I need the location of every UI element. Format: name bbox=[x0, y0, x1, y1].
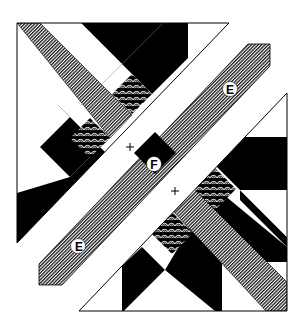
label-f-center: F bbox=[147, 157, 162, 172]
label-e-upper: E bbox=[223, 82, 238, 97]
label-e-upper-text: E bbox=[226, 83, 234, 97]
quilt-diagram: E F E bbox=[0, 0, 306, 323]
label-f-text: F bbox=[150, 158, 157, 172]
cross-marker-lower bbox=[171, 187, 179, 195]
cross-marker-upper bbox=[126, 143, 134, 151]
label-e-lower-text: E bbox=[75, 240, 83, 254]
label-e-lower: E bbox=[71, 239, 86, 254]
